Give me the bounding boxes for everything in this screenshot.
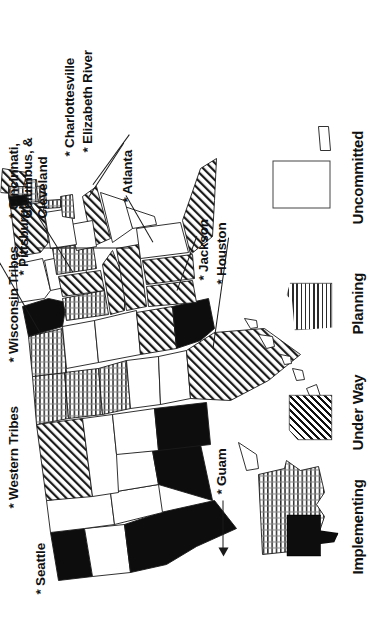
callout-houston: * Houston — [214, 222, 228, 284]
callout-jackson: * Jackson — [196, 219, 210, 280]
legend-swatch-under-way — [288, 394, 332, 440]
guam-arrow-head — [218, 547, 228, 556]
guam-arrow-line — [222, 500, 223, 548]
callout-wisconsin-tribes: * Wisconsin Tribes — [6, 246, 20, 362]
callout-seattle: * Seattle — [33, 543, 47, 594]
legend-label-planning: Planning — [348, 272, 365, 334]
rotated-stage: * Pittsburgh * Charlottesville * Elizabe… — [0, 0, 375, 620]
callout-charlottesville: * Charlottesville — [62, 57, 76, 156]
figure-canvas: * Pittsburgh * Charlottesville * Elizabe… — [0, 0, 375, 620]
leader-pittsburgh — [36, 247, 132, 248]
legend-label-uncommitted: Uncommitted — [348, 130, 365, 224]
callout-elizabeth-river: * Elizabeth River — [80, 50, 94, 152]
callout-guam: * Guam — [214, 448, 228, 494]
callout-atlanta: * Atlanta — [120, 150, 134, 202]
legend-label-implementing: Implementing — [348, 479, 365, 574]
callout-western-tribes: * Western Tribes — [6, 406, 20, 508]
callout-cincinnati-columbus-cleveland: * Cincinnati, Columbus, & Cleveland — [6, 137, 49, 218]
legend-label-under-way: Under Way — [348, 374, 365, 450]
legend-swatch-uncommitted — [272, 160, 330, 208]
